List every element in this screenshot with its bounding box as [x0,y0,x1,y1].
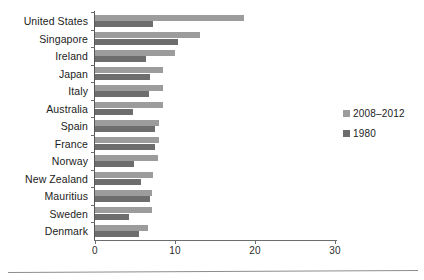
bar-row: Sweden [95,205,335,223]
y-tick-mark [91,170,95,171]
bar-row: Japan [95,65,335,83]
bar-series-old [95,179,141,185]
x-tick-mark [335,240,336,244]
bar-row: United States [95,12,335,30]
bar-row: Ireland [95,47,335,65]
y-tick-mark [91,100,95,101]
category-label: New Zealand [25,173,88,185]
chart-legend: 2008–2012 1980 [343,108,423,148]
bar-series-recent [95,172,153,178]
y-tick-mark [91,135,95,136]
bar-row: Singapore [95,30,335,48]
legend-swatch-recent-icon [343,110,350,117]
bar-series-recent [95,15,244,21]
category-label: Mauritius [45,190,89,202]
bar-row: Italy [95,82,335,100]
category-label: Norway [52,155,88,167]
x-tick-label: 20 [249,245,261,256]
y-tick-mark [91,47,95,48]
x-tick-label: 10 [169,245,181,256]
bar-series-recent [95,67,163,73]
bar-series-old [95,161,134,167]
legend-label-recent: 2008–2012 [353,108,405,119]
bar-series-old [95,91,149,97]
y-tick-mark [91,65,95,66]
y-tick-mark [91,30,95,31]
bar-series-old [95,21,153,27]
bar-series-recent [95,155,158,161]
page-divider-rule [8,270,418,273]
y-tick-mark [91,222,95,223]
bar-series-old [95,144,155,150]
x-tick-mark [255,240,256,244]
bar-series-old [95,109,133,115]
x-tick-mark [95,240,96,244]
x-tick-mark [175,240,176,244]
bar-series-recent [95,50,175,56]
y-tick-mark [91,205,95,206]
bar-series-recent [95,32,200,38]
bar-series-old [95,231,139,237]
y-tick-mark [91,117,95,118]
bar-series-old [95,56,146,62]
bar-series-old [95,126,155,132]
legend-item-old: 1980 [343,128,423,139]
bar-row: Mauritius [95,187,335,205]
x-tick-label: 0 [92,245,98,256]
legend-swatch-old-icon [343,130,350,137]
bar-series-recent [95,85,163,91]
bar-row: France [95,135,335,153]
bar-series-recent [95,137,159,143]
bar-row: Norway [95,152,335,170]
bar-series-old [95,196,150,202]
bar-series-recent [95,120,159,126]
x-axis-line [94,240,337,241]
bar-series-recent [95,190,152,196]
bar-series-old [95,214,129,220]
bar-row: Spain [95,117,335,135]
category-label: France [55,138,88,150]
bar-series-recent [95,102,163,108]
y-tick-mark [91,187,95,188]
category-label: Japan [59,68,88,80]
category-label: United States [24,15,88,27]
bar-series-old [95,39,178,45]
legend-label-old: 1980 [353,128,376,139]
legend-item-recent: 2008–2012 [343,108,423,119]
category-label: Spain [61,120,88,132]
category-label: Australia [46,103,88,115]
category-label: Sweden [49,208,88,220]
bar-chart-figure: United StatesSingaporeIrelandJapanItalyA… [0,0,424,280]
bar-row: Denmark [95,222,335,240]
y-tick-mark [91,82,95,83]
x-tick-label: 30 [329,245,341,256]
category-label: Denmark [45,225,88,237]
category-label: Singapore [39,33,88,45]
bar-series-recent [95,225,148,231]
bar-series-old [95,74,150,80]
bar-row: Australia [95,100,335,118]
y-tick-mark [91,152,95,153]
category-label: Italy [68,85,88,97]
bar-series-recent [95,207,152,213]
y-tick-mark [91,12,95,13]
bar-row: New Zealand [95,170,335,188]
category-label: Ireland [55,50,88,62]
